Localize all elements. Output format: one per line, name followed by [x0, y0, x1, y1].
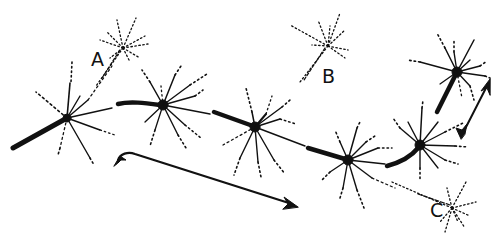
cell-node-1	[36, 62, 115, 165]
right-arrow	[456, 79, 490, 139]
cell-node-4	[322, 122, 395, 208]
cell-chain-diagram: A B C	[0, 0, 502, 242]
faint-cell-b	[290, 13, 348, 82]
label-a: A	[91, 48, 104, 70]
arrow-fletching	[114, 156, 126, 166]
cell-node-2	[142, 66, 210, 148]
connecting-processes	[13, 74, 456, 166]
cell-node-3	[223, 88, 305, 177]
bottom-arrow	[114, 153, 298, 209]
label-c: C	[430, 199, 443, 221]
cell-node-5	[393, 100, 468, 180]
label-b: B	[322, 65, 335, 87]
